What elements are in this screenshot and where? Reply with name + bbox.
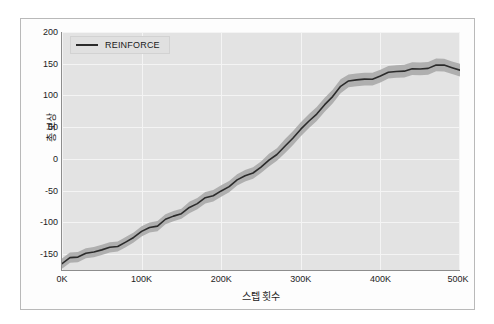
- y-tick-label: -100: [18, 218, 58, 227]
- axis-spine-bottom: [61, 270, 460, 271]
- chart-figure: 200 150 100 50 0 -50 -100 -150 0K 100K: [0, 0, 494, 324]
- x-axis-tick-labels: 0K 100K 200K 300K 400K 500K: [62, 274, 460, 288]
- y-tick-label: -50: [18, 187, 58, 196]
- x-tick-label: 400K: [358, 274, 402, 284]
- legend-item-label: REINFORCE: [105, 40, 160, 50]
- axis-spine-left: [61, 32, 62, 271]
- y-tick-label: -150: [18, 250, 58, 259]
- x-axis-title: 스텝 횟수: [62, 288, 460, 303]
- x-tick-label: 500K: [436, 274, 480, 284]
- chart-plot-svg: [62, 32, 460, 270]
- x-tick-label: 300K: [279, 274, 323, 284]
- x-tick-label: 0K: [40, 274, 84, 284]
- plot-area: [62, 32, 460, 270]
- legend-line-swatch: [76, 44, 98, 46]
- y-tick-label: 150: [18, 60, 58, 69]
- y-axis-title: 총 보상: [43, 98, 58, 158]
- confidence-band-reinforce: [62, 59, 460, 269]
- chart-legend: REINFORCE: [70, 36, 170, 54]
- x-tick-label: 100K: [120, 274, 164, 284]
- x-tick-label: 200K: [199, 274, 243, 284]
- y-tick-label: 200: [18, 28, 58, 37]
